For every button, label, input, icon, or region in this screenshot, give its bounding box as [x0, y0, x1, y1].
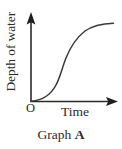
data-curve: [31, 23, 113, 101]
origin-label: O: [26, 102, 35, 115]
figure-caption-word: Graph: [38, 127, 72, 142]
x-axis-label: Time: [44, 104, 106, 120]
graph-figure: Depth of water O Time Graph A: [0, 0, 122, 149]
figure-caption-letter: A: [75, 127, 85, 142]
figure-caption: Graph A: [0, 128, 122, 143]
